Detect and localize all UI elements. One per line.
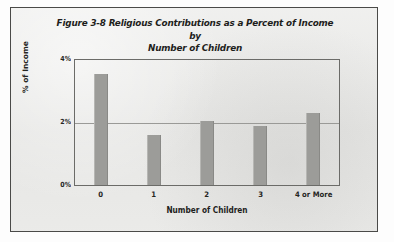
chart-title: Figure 3-8 Religious Contributions as a …: [56, 17, 335, 55]
y-tick-label-2pct: 2%: [44, 118, 71, 126]
bar-0-children: [94, 74, 108, 185]
chart-title-line-1: Figure 3-8 Religious Contributions as a …: [56, 17, 335, 42]
x-tick-label-2: 2: [183, 190, 232, 199]
chart-title-line-2: Number of Children: [56, 42, 335, 55]
bar-slot: [233, 60, 286, 185]
figure-border: Figure 3-8 Religious Contributions as a …: [10, 7, 378, 232]
x-tick-label-3: 3: [236, 190, 285, 199]
y-axis-title: % of Income: [21, 41, 30, 93]
y-tick-label-4pct: 4%: [44, 55, 71, 63]
x-axis-title: Number of Children: [85, 206, 330, 215]
bar-4-or-more-children: [306, 113, 320, 185]
bar-slot: [128, 60, 181, 185]
bar-slot: [181, 60, 234, 185]
x-axis-tick-labels: 0 1 2 3 4 or More: [74, 190, 340, 199]
x-tick-label-4-or-more: 4 or More: [289, 190, 338, 199]
bar-1-children: [147, 135, 161, 185]
bar-slot: [75, 60, 128, 185]
x-tick-label-0: 0: [76, 190, 125, 199]
bar-3-children: [253, 126, 267, 185]
bar-2-children: [200, 121, 214, 185]
plot-area: [74, 59, 340, 186]
figure-screenshot: Figure 3-8 Religious Contributions as a …: [0, 0, 394, 242]
x-tick-label-1: 1: [129, 190, 178, 199]
bar-series: [75, 60, 339, 185]
y-tick-label-0pct: 0%: [44, 181, 71, 189]
bar-slot: [286, 60, 339, 185]
y-axis-tick-labels: 4% 2% 0%: [41, 53, 71, 192]
